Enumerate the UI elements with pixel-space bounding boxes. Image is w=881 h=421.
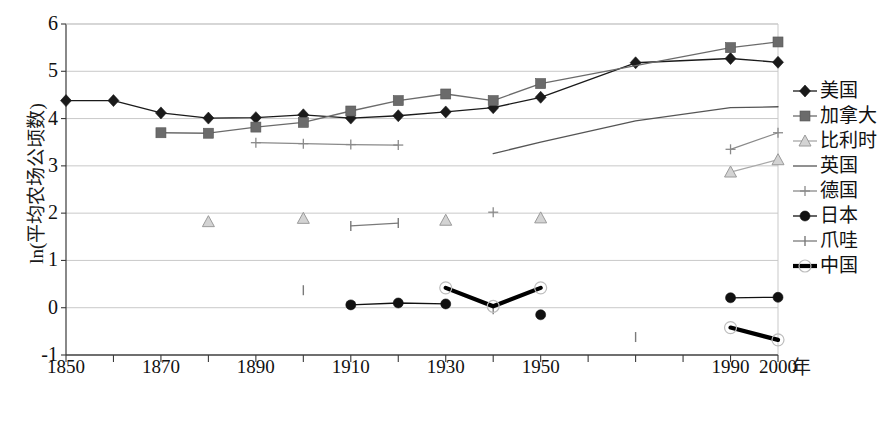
data-point-marker: [346, 140, 356, 150]
data-point-marker: [726, 144, 736, 154]
data-point-marker: [440, 106, 451, 118]
none-marker-icon: [792, 156, 818, 176]
data-point-marker: [800, 211, 810, 221]
legend-item-德国[interactable]: 德国: [792, 178, 878, 203]
data-point-marker: [773, 56, 784, 68]
legend-item-label: 日本: [820, 206, 858, 225]
data-point-marker: [726, 293, 736, 303]
series-日本: [346, 292, 783, 319]
series-line: [731, 328, 778, 340]
series-line: [731, 133, 778, 150]
data-point-marker: [488, 207, 498, 217]
data-point-marker: [773, 37, 783, 47]
data-point-marker: [393, 96, 403, 106]
chart-legend: 美国加拿大比利时英国德国日本爪哇中国: [792, 78, 878, 278]
data-point-marker: [772, 154, 784, 165]
data-point-marker: [726, 43, 736, 53]
data-point-marker: [800, 186, 810, 196]
triangle-marker-icon: [792, 131, 818, 151]
legend-item-label: 比利时: [820, 131, 877, 150]
data-point-marker: [251, 138, 261, 148]
series-英国: [493, 107, 778, 154]
figure-caption: [0, 402, 881, 421]
series-line: [351, 223, 398, 226]
data-point-marker: [298, 117, 308, 127]
legend-item-中国[interactable]: 中国: [792, 253, 878, 278]
data-point-marker: [800, 111, 810, 121]
legend-item-label: 英国: [820, 156, 858, 175]
legend-item-label: 爪哇: [820, 231, 858, 250]
diamond-marker-icon: [792, 81, 818, 101]
data-point-marker: [61, 95, 72, 107]
series-line: [493, 107, 778, 154]
series-德国: [251, 128, 783, 217]
plus-marker-icon: [792, 181, 818, 201]
series-美国: [61, 53, 784, 125]
data-point-marker: [202, 216, 214, 227]
data-point-marker: [298, 139, 308, 149]
legend-item-加拿大[interactable]: 加拿大: [792, 103, 878, 128]
data-point-marker: [203, 128, 213, 138]
series-加拿大: [156, 37, 783, 138]
data-point-marker: [393, 298, 403, 308]
data-point-marker: [393, 110, 404, 122]
data-point-marker: [203, 112, 214, 124]
legend-item-label: 德国: [820, 181, 858, 200]
square-marker-icon: [792, 106, 818, 126]
series-中国: [440, 282, 784, 346]
data-point-marker: [297, 212, 309, 223]
chart-figure: ln(平均农场公顷数) 年 -10123456 1850187018901910…: [0, 0, 881, 421]
data-point-marker: [346, 106, 356, 116]
bar-marker-icon: [792, 231, 818, 251]
data-point-marker: [725, 53, 736, 65]
data-point-marker: [441, 89, 451, 99]
series-爪哇: [303, 218, 635, 342]
data-point-marker: [536, 79, 546, 89]
data-point-marker: [156, 128, 166, 138]
data-point-marker: [441, 299, 451, 309]
data-point-marker: [251, 122, 261, 132]
legend-item-美国[interactable]: 美国: [792, 78, 878, 103]
data-point-marker: [536, 310, 546, 320]
legend-item-label: 中国: [820, 256, 858, 275]
data-point-marker: [773, 292, 783, 302]
legend-item-label: 美国: [820, 81, 858, 100]
legend-item-label: 加拿大: [820, 106, 877, 125]
data-point-marker: [800, 85, 811, 97]
legend-item-爪哇[interactable]: 爪哇: [792, 228, 878, 253]
data-point-marker: [108, 95, 119, 107]
data-point-marker: [773, 128, 783, 138]
thick-marker-icon: [792, 256, 818, 276]
data-point-marker: [346, 300, 356, 310]
series-line: [446, 288, 541, 306]
data-point-marker: [535, 91, 546, 103]
series-line: [256, 143, 398, 145]
data-point-marker: [393, 140, 403, 150]
legend-item-比利时[interactable]: 比利时: [792, 128, 878, 153]
plot-area: [0, 0, 881, 421]
data-point-marker: [155, 107, 166, 119]
data-point-marker: [440, 214, 452, 225]
circle-marker-icon: [792, 206, 818, 226]
data-point-marker: [488, 96, 498, 106]
legend-item-英国[interactable]: 英国: [792, 153, 878, 178]
series-line: [66, 59, 778, 119]
legend-item-日本[interactable]: 日本: [792, 203, 878, 228]
